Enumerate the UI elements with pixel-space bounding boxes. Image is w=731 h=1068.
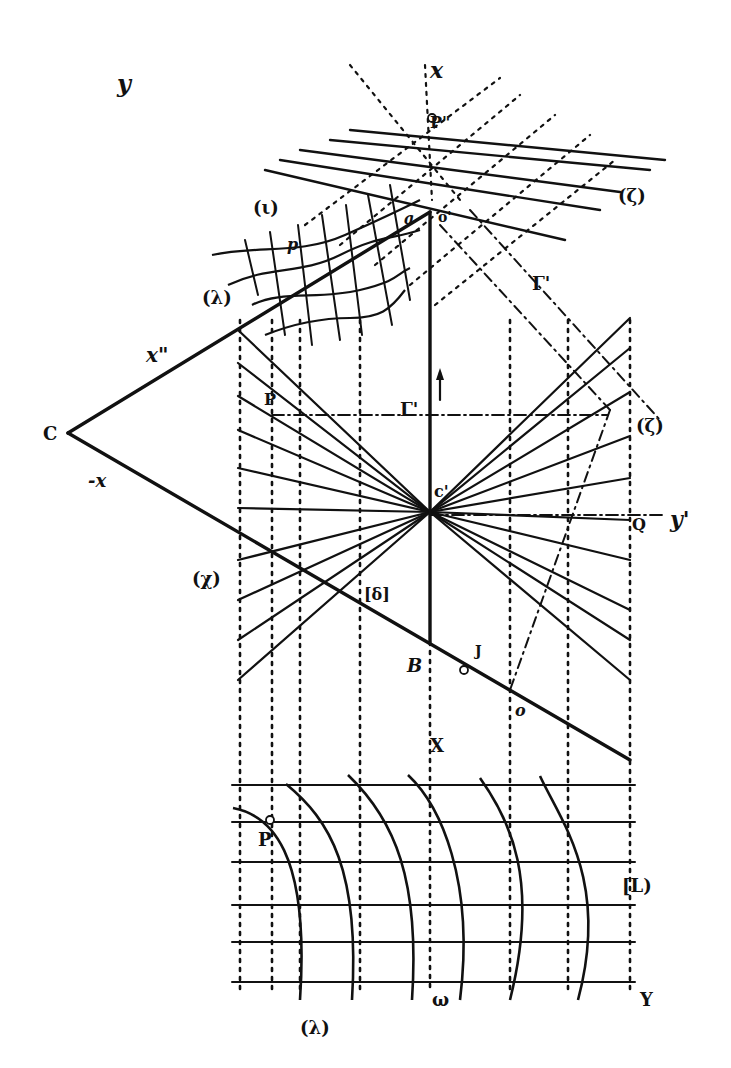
label-C-left: C bbox=[43, 423, 57, 444]
geometry-diagram: yxP"(ζ)(ι)ao'p(λ)x"Γ'C-xPΓ'(ζ)c'Qy'(χ)[δ… bbox=[0, 0, 731, 1068]
label-x-dd: x" bbox=[145, 343, 168, 367]
label-C-prime: c' bbox=[434, 482, 449, 501]
point-marker bbox=[266, 816, 274, 824]
label-o-lower: o bbox=[515, 701, 526, 720]
label-zeta-right: (ζ) bbox=[636, 415, 664, 436]
label-y-top: y bbox=[116, 69, 133, 98]
label-Y-bottom: Y bbox=[639, 989, 654, 1010]
label-P-upper: P bbox=[264, 390, 276, 409]
label-B-mid: B bbox=[406, 655, 422, 676]
label-Gamma-right: Γ' bbox=[532, 273, 550, 294]
label-x-top: x bbox=[429, 57, 444, 83]
label-iota-top: (ι) bbox=[253, 197, 279, 218]
label-X-lower: X bbox=[430, 735, 444, 756]
label-P-dd: P" bbox=[430, 113, 450, 132]
label-lambda-mid: (λ) bbox=[202, 287, 232, 308]
label-lambda-bottom: (λ) bbox=[300, 1017, 330, 1038]
point-marker bbox=[460, 666, 468, 674]
label-chi-left: (χ) bbox=[192, 568, 221, 589]
label-J-mid: J bbox=[473, 643, 482, 659]
label-delta: [δ] bbox=[364, 585, 390, 604]
label-P-lower: P bbox=[258, 829, 272, 850]
label-y-prime: y' bbox=[669, 506, 690, 532]
label-Q-right: Q bbox=[632, 515, 646, 534]
label-O-top: o' bbox=[438, 209, 452, 225]
label-zeta-top: (ζ) bbox=[618, 185, 646, 206]
label-Gamma-mid: Γ' bbox=[400, 399, 418, 420]
label-p-top: p bbox=[287, 235, 298, 254]
label-omega-bottom: ω bbox=[432, 989, 449, 1010]
label-a-top: a bbox=[404, 209, 414, 228]
label-minus-x: -x bbox=[88, 470, 106, 491]
paper-background bbox=[0, 0, 731, 1068]
label-L-right: [L) bbox=[622, 875, 652, 896]
